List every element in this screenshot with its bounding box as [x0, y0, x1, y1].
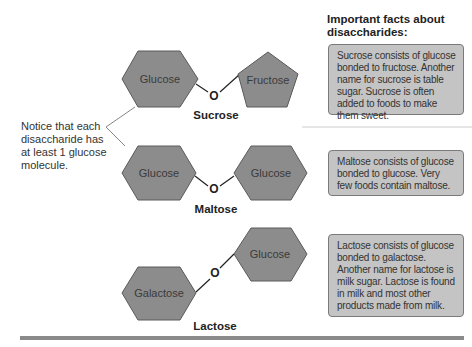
maltose-name: Maltose: [195, 203, 238, 215]
sucrose-name: Sucrose: [193, 109, 238, 121]
divider: [302, 126, 472, 128]
oxygen-label: O: [209, 182, 218, 196]
glucose-label: Glucose: [250, 248, 290, 260]
glucose-label-left: Glucose: [139, 167, 179, 179]
sucrose-structure: Glucose O Fructose Sucrose: [122, 51, 298, 121]
oxygen-label: O: [209, 89, 218, 103]
facts-title: Important facts about disaccharides:: [327, 13, 467, 39]
lactose-fact-box: Lactose consists of glucose bonded to ga…: [328, 234, 464, 317]
sucrose-fact-box: Sucrose consists of glucose bonded to fr…: [328, 44, 464, 115]
maltose-fact-box: Maltose consists of glucose bonded to gl…: [328, 150, 464, 196]
oxygen-label: O: [210, 266, 219, 280]
bottom-rule: [20, 336, 464, 340]
fructose-label: Fructose: [247, 74, 290, 86]
glucose-label-right: Glucose: [251, 167, 291, 179]
lactose-structure: Glucose O Galactose Lactose: [122, 228, 307, 332]
notice-text: Notice that each disaccharide has at lea…: [21, 120, 111, 172]
maltose-structure: Glucose O Glucose Maltose: [122, 146, 307, 215]
lactose-name: Lactose: [193, 320, 236, 332]
glucose-label: Glucose: [140, 73, 180, 85]
galactose-label: Galactose: [134, 287, 184, 299]
